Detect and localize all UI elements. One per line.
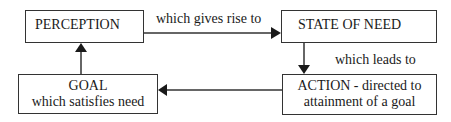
node-action-text-line2: attainment of a goal xyxy=(283,94,436,110)
arrow-perception-to-need xyxy=(144,27,281,39)
arrow-action-to-goal xyxy=(158,84,282,96)
node-action-text-line1: ACTION - directed to xyxy=(283,78,436,94)
edge-label-leads-to: which leads to xyxy=(335,52,416,68)
node-state-of-need: STATE OF NEED xyxy=(281,10,437,43)
node-state-of-need-text: STATE OF NEED xyxy=(298,17,436,33)
node-goal-text-line2: which satisfies need xyxy=(19,94,157,110)
node-perception: PERCEPTION xyxy=(25,10,144,43)
node-goal: GOAL which satisfies need xyxy=(18,74,158,114)
node-perception-text: PERCEPTION xyxy=(35,17,143,33)
arrow-need-to-action xyxy=(298,43,310,74)
edge-label-gives-rise-to: which gives rise to xyxy=(156,11,261,27)
node-goal-text-line1: GOAL xyxy=(19,78,157,94)
arrow-goal-to-perception xyxy=(75,43,87,74)
node-action: ACTION - directed to attainment of a goa… xyxy=(282,74,437,115)
